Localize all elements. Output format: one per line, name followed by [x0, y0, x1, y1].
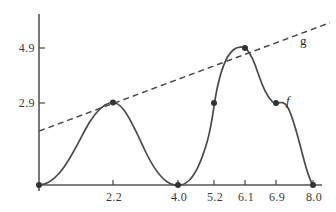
data-point-2.2-2.9	[110, 100, 116, 106]
x-tick-label-6.9: 6.9	[269, 190, 285, 205]
data-point-8.0-0	[310, 182, 316, 188]
curve-label-f: f	[286, 93, 290, 109]
y-tick-label-4.9: 4.9	[13, 41, 35, 56]
data-point-4.0-0	[175, 182, 181, 188]
chart-screenshot: 4.9 2.9 2.2 4.0 5.2 6.1 6.9 8.0 g f	[0, 0, 336, 212]
data-point-6.9-2.9	[273, 100, 279, 106]
curve-g-dashed-line	[39, 23, 330, 131]
data-point-5.2-2.9	[211, 100, 217, 106]
curve-label-g: g	[300, 33, 307, 49]
x-tick-label-5.2: 5.2	[207, 190, 223, 205]
x-tick-label-6.1: 6.1	[238, 190, 254, 205]
x-tick-label-4.0: 4.0	[171, 190, 187, 205]
data-point-0-0	[36, 182, 42, 188]
x-tick-label-2.2: 2.2	[106, 190, 122, 205]
data-point-6.1-4.9	[242, 45, 248, 51]
x-tick-label-8.0: 8.0	[306, 190, 322, 205]
y-tick-label-2.9: 2.9	[13, 96, 35, 111]
